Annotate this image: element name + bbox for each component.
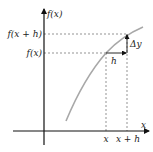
y-axis-label: f(x) xyxy=(46,9,63,19)
diagram-canvas: f(x) x f(x + h) f(x) x x + h h Δy xyxy=(0,0,153,152)
x-tick-xh: x + h xyxy=(116,134,140,144)
y-tick-fx: f(x) xyxy=(26,48,43,58)
x-axis-label: x xyxy=(141,120,146,130)
y-tick-fxh: f(x + h) xyxy=(7,29,43,39)
delta-y-label: Δy xyxy=(129,39,142,49)
x-tick-x: x xyxy=(103,134,108,144)
h-label: h xyxy=(111,56,117,66)
